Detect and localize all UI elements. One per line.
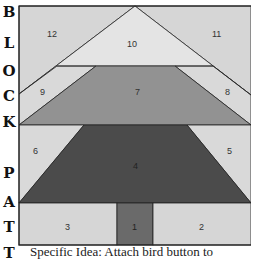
piece-label-2: 2 (199, 222, 204, 232)
caption: Specific Idea: Attach bird button to (30, 244, 260, 260)
piece-label-9: 9 (40, 87, 45, 97)
piece-label-1: 1 (132, 222, 137, 232)
piece-label-12: 12 (47, 29, 57, 39)
piece-label-11: 11 (212, 29, 221, 39)
piece-label-7: 7 (135, 87, 140, 97)
piece-label-10: 10 (127, 39, 137, 49)
piece-label-3: 3 (65, 222, 70, 232)
piece-label-4: 4 (133, 161, 138, 171)
piece-label-8: 8 (225, 87, 230, 97)
piece-label-6: 6 (33, 146, 38, 156)
piece-label-5: 5 (227, 146, 232, 156)
